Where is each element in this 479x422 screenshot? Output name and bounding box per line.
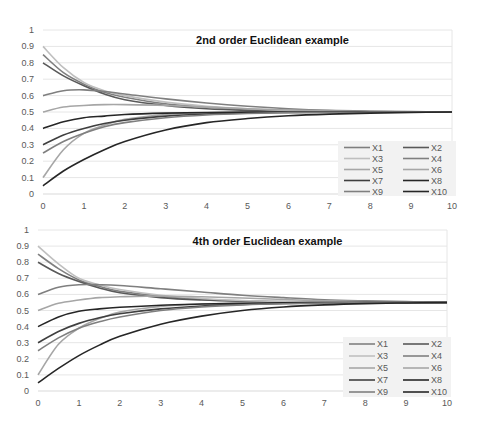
legend-label-x3: X3: [377, 351, 388, 361]
x-tick-label: 4: [204, 201, 209, 211]
series-line-x2: [38, 262, 447, 302]
y-tick-label: 0.2: [21, 156, 34, 166]
y-tick-label: 0: [24, 386, 29, 396]
legend-label-x1: X1: [377, 339, 388, 349]
y-tick-label: 0.3: [21, 140, 34, 150]
x-tick-label: 5: [245, 201, 250, 211]
legend-label-x9: X9: [372, 187, 383, 197]
x-tick-label: 3: [163, 201, 168, 211]
x-tick-label: 9: [409, 201, 414, 211]
x-tick-label: 5: [240, 398, 245, 408]
x-tick-label: 2: [122, 201, 127, 211]
y-tick-label: 0.4: [16, 322, 29, 332]
y-tick-label: 0.5: [21, 107, 34, 117]
legend-label-x6: X6: [431, 363, 442, 373]
legend-label-x1: X1: [372, 143, 383, 153]
x-tick-label: 8: [368, 201, 373, 211]
x-tick-label: 10: [442, 398, 452, 408]
y-tick-label: 0.4: [21, 123, 34, 133]
legend-label-x8: X8: [431, 176, 442, 186]
series-line-x8: [38, 302, 447, 326]
legend-label-x2: X2: [431, 143, 442, 153]
y-tick-label: 0.9: [21, 41, 34, 51]
x-tick-label: 10: [447, 201, 457, 211]
chart-4th-order: 00.10.20.30.40.50.60.70.80.9101234567891…: [16, 225, 452, 408]
y-tick-label: 1: [29, 25, 34, 35]
x-tick-label: 2: [117, 398, 122, 408]
y-tick-label: 0.3: [16, 338, 29, 348]
y-tick-label: 0.5: [16, 306, 29, 316]
y-tick-label: 0.2: [16, 354, 29, 364]
x-tick-label: 6: [281, 398, 286, 408]
legend-label-x7: X7: [377, 375, 388, 385]
chart-title: 4th order Euclidean example: [193, 235, 343, 247]
chart-2nd-order: 00.10.20.30.40.50.60.70.80.9101234567891…: [21, 25, 457, 211]
y-tick-label: 0.1: [16, 370, 29, 380]
y-tick-label: 0.6: [21, 91, 34, 101]
legend-label-x10: X10: [431, 387, 447, 397]
x-tick-label: 6: [286, 201, 291, 211]
legend-label-x4: X4: [431, 154, 442, 164]
legend-label-x4: X4: [431, 351, 442, 361]
x-tick-label: 7: [327, 201, 332, 211]
y-tick-label: 0.9: [16, 241, 29, 251]
y-tick-label: 0.7: [16, 273, 29, 283]
y-tick-label: 0.8: [21, 58, 34, 68]
y-tick-label: 1: [24, 225, 29, 235]
legend: X1X2X3X4X5X6X7X8X9X10: [338, 141, 456, 197]
legend-label-x8: X8: [431, 375, 442, 385]
legend-label-x5: X5: [377, 363, 388, 373]
x-tick-label: 0: [40, 201, 45, 211]
y-tick-label: 0.7: [21, 74, 34, 84]
chart-title: 2nd order Euclidean example: [196, 34, 349, 46]
x-tick-label: 7: [322, 398, 327, 408]
x-tick-label: 0: [35, 398, 40, 408]
x-tick-label: 3: [158, 398, 163, 408]
legend-label-x2: X2: [431, 339, 442, 349]
charts: 00.10.20.30.40.50.60.70.80.9101234567891…: [0, 0, 479, 422]
legend-label-x7: X7: [372, 176, 383, 186]
x-tick-label: 1: [76, 398, 81, 408]
y-tick-label: 0.6: [16, 289, 29, 299]
y-tick-label: 0.8: [16, 257, 29, 267]
legend: X1X2X3X4X5X6X7X8X9X10: [343, 337, 451, 397]
legend-label-x6: X6: [431, 165, 442, 175]
legend-label-x10: X10: [431, 187, 447, 197]
x-tick-label: 4: [199, 398, 204, 408]
y-tick-label: 0.1: [21, 173, 34, 183]
x-tick-label: 1: [81, 201, 86, 211]
legend-label-x9: X9: [377, 387, 388, 397]
y-tick-label: 0: [29, 189, 34, 199]
legend-label-x5: X5: [372, 165, 383, 175]
x-tick-label: 9: [404, 398, 409, 408]
x-tick-label: 8: [363, 398, 368, 408]
legend-label-x3: X3: [372, 154, 383, 164]
